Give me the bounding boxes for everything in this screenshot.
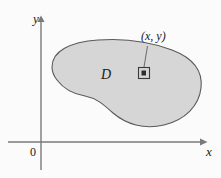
x-axis-label: x: [206, 145, 212, 158]
figure-canvas: y x 0 D (x, y): [0, 0, 221, 178]
y-axis: [37, 16, 44, 171]
x-axis: [8, 138, 208, 145]
area-element-dot: [142, 71, 147, 76]
region-label-d: D: [101, 68, 111, 82]
region-d-shape: [52, 39, 201, 126]
origin-label: 0: [30, 146, 36, 158]
y-axis-label: y: [33, 12, 39, 25]
point-coordinate-label: (x, y): [141, 30, 166, 42]
